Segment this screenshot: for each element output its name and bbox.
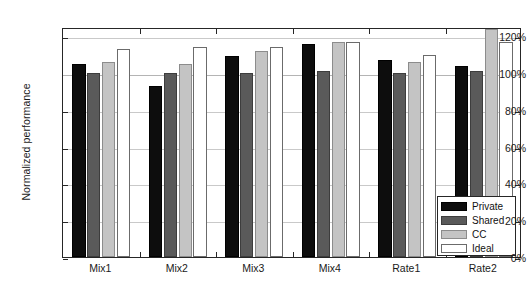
x-axis-tick [140,29,141,34]
x-axis-tick-label: Mix3 [242,262,264,274]
bar-mix4-ideal [346,42,359,257]
bar-rate1-shared [393,73,406,257]
x-axis-tick [216,29,217,34]
x-axis-tick [369,252,370,257]
x-axis-tick [293,29,294,34]
y-axis-tick [63,149,68,150]
y-axis-tick-label: 100% [480,68,532,80]
bar-rate1-private [378,60,391,257]
x-axis-tick-label: Rate2 [469,262,497,274]
y-gridline [63,185,520,186]
y-axis-title: Normalized performance [20,42,32,242]
reference-line-100 [63,75,520,76]
bar-mix2-ideal [193,47,206,257]
bar-rate1-ideal [423,55,436,257]
bar-mix1-cc [102,62,115,257]
x-axis-tick [446,29,447,34]
legend-label-cc: CC [472,229,486,240]
x-axis-tick [140,252,141,257]
legend-item-private: Private [441,200,512,213]
bar-mix1-shared [87,73,100,257]
y-gridline [63,149,520,150]
y-axis-tick [63,112,68,113]
x-axis-tick-label: Mix1 [89,262,111,274]
x-axis-tick-label: Mix2 [166,262,188,274]
legend-swatch-cc [441,230,467,239]
bar-mix3-private [225,56,238,257]
x-axis-tick [216,252,217,257]
y-axis-tick [63,259,68,260]
y-axis-tick-label: 60% [480,142,532,154]
bar-mix4-shared [317,71,330,257]
y-axis-tick [63,222,68,223]
legend-swatch-ideal [441,244,467,253]
bar-mix2-shared [164,73,177,257]
bar-mix4-private [302,44,315,257]
legend-swatch-shared [441,216,467,225]
bar-mix2-private [149,86,162,257]
bar-mix3-ideal [270,47,283,257]
x-axis-tick [293,252,294,257]
legend-label-private: Private [472,201,503,212]
bar-chart-figure: Normalized performance PrivateSharedCCId… [0,0,532,289]
y-gridline [63,38,520,39]
bar-rate1-cc [408,62,421,257]
y-axis-tick [63,185,68,186]
legend-swatch-private [441,202,467,211]
y-axis-tick-label: 20% [480,215,532,227]
bar-mix2-cc [179,64,192,257]
x-axis-tick [369,29,370,34]
bar-mix1-ideal [117,49,130,257]
y-axis-tick [63,38,68,39]
bar-mix1-private [72,64,85,257]
y-axis-tick-label: 120% [480,31,532,43]
x-axis-tick-label: Mix4 [319,262,341,274]
y-gridline [63,112,520,113]
bar-mix4-cc [332,42,345,257]
bar-mix3-shared [240,73,253,257]
legend-item-cc: CC [441,228,512,241]
y-axis-tick-label: 80% [480,105,532,117]
x-axis-tick-label: Rate1 [392,262,420,274]
bar-mix3-cc [255,51,268,257]
y-axis-tick-label: 40% [480,178,532,190]
